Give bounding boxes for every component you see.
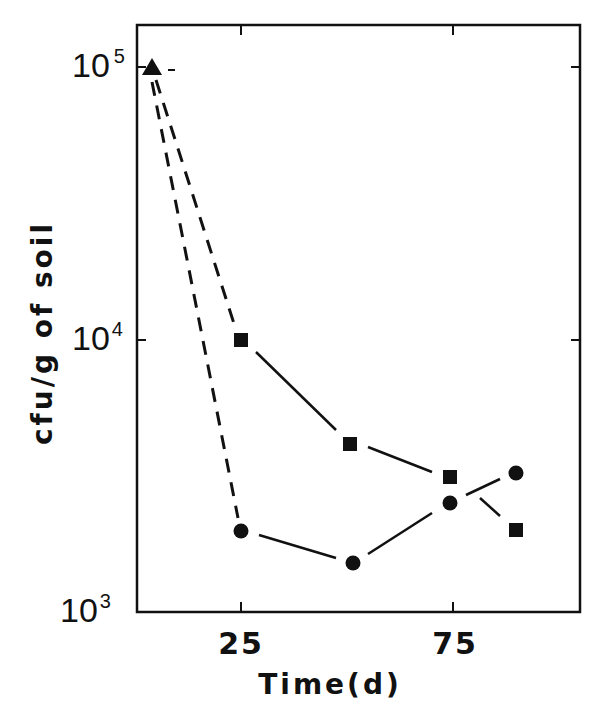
y-tick-label-1e5: 105 [72,45,125,84]
dashed-line-to-square [156,80,236,330]
x-tick-label-75: 75 [432,626,478,661]
circle-marker-51 [346,556,361,571]
circle-marker-25 [234,524,249,539]
y-tick-label-1e4: 104 [72,318,123,357]
circle-series-lines [259,479,500,558]
circle-marker-90 [509,466,524,481]
y-axis-title: cfu/g of soil [26,221,59,445]
square-marker-25 [234,333,248,347]
square-marker-90 [509,523,523,537]
chart-canvas: 105 104 103 25 75 Time(d) cfu/g of soil [0,0,608,715]
square-marker-74 [443,470,457,484]
x-tick-label-25: 25 [218,626,264,661]
square-series-lines [256,352,500,516]
x-axis-title: Time(d) [258,668,402,701]
y-tick-label-1e3: 103 [60,590,111,629]
square-marker-51 [343,437,357,451]
dashed-line-to-circle [152,82,238,518]
circle-marker-74 [443,496,458,511]
